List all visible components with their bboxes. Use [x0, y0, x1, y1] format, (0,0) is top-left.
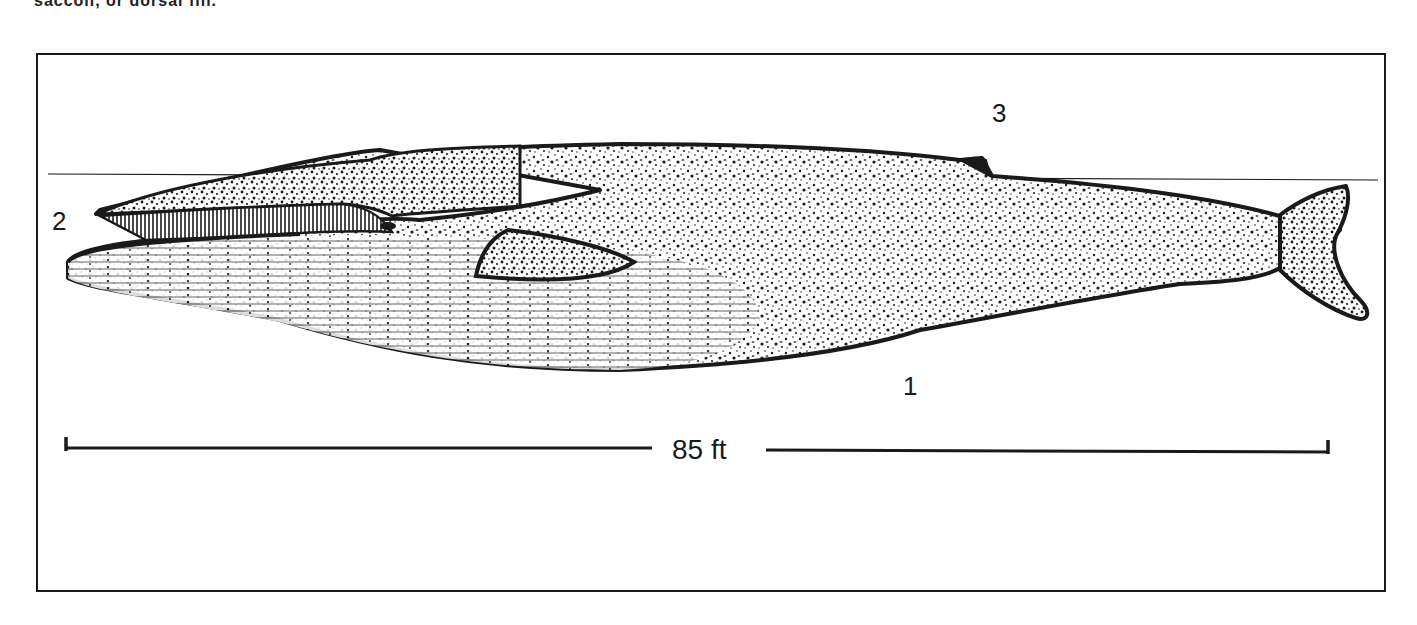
- whale-illustration: [0, 0, 1417, 625]
- tail-fluke: [1280, 186, 1367, 319]
- scale-bar-label: 85 ft: [666, 436, 732, 464]
- label-2: 2: [52, 208, 66, 234]
- label-3: 3: [992, 100, 1006, 126]
- eye: [380, 222, 396, 230]
- label-1: 1: [903, 373, 917, 399]
